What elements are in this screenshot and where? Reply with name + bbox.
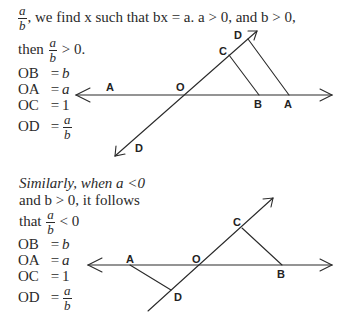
diagonal-ray xyxy=(115,31,257,156)
label-b: B xyxy=(277,268,285,280)
label-c: C xyxy=(233,216,241,228)
segment-ad xyxy=(130,265,171,290)
label-c: C xyxy=(219,45,227,57)
diagram-2 xyxy=(88,198,332,311)
label-a: A xyxy=(284,98,292,110)
diagram-1 xyxy=(76,31,332,156)
label-o: O xyxy=(192,253,201,265)
label-o: O xyxy=(176,81,185,93)
label-a: A xyxy=(126,253,134,265)
label-d: D xyxy=(174,291,182,303)
geometry-diagrams: A O B A C D D A O B C D xyxy=(0,0,350,313)
diagonal-ray xyxy=(148,198,273,311)
label-b: B xyxy=(254,98,262,110)
label-d-top: D xyxy=(234,29,242,41)
segment-cb xyxy=(242,228,282,265)
segment-da xyxy=(248,39,289,95)
segment-cb xyxy=(229,55,259,95)
label-d-bottom: D xyxy=(135,142,143,154)
label-a-left: A xyxy=(106,81,114,93)
